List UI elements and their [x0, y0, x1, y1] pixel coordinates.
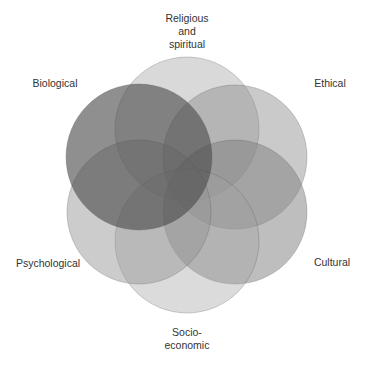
label-cultural: Cultural: [307, 256, 357, 269]
label-socioeconomic: Socio- economic: [162, 326, 212, 352]
label-ethical: Ethical: [305, 77, 355, 90]
label-psychological: Psychological: [12, 257, 84, 270]
label-biological: Biological: [20, 77, 90, 90]
circle-biological: [66, 84, 212, 230]
label-religious-spiritual: Religious and spiritual: [147, 12, 227, 51]
venn-diagram: [0, 0, 368, 365]
